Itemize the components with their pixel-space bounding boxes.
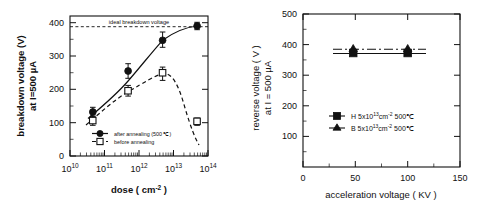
legend-filled-circle-icon [97,130,103,136]
right-x-tick-labels: 0 50 100 150 [300,173,467,183]
left-x-tick-5: 1014 [199,162,217,174]
chart-breakdown-voltage-vs-dose: ideal breakdown voltage 0 100 [0,0,245,205]
left-y-axis-title-line1: breakdown voltage (V) [15,35,26,136]
after-annealing-point-4 [194,23,201,30]
legend-label-B-implant: B 5x1013cm-2 500℃ [351,123,414,132]
right-y-tick-500: 500 [282,9,297,19]
before-annealing-point-2 [125,88,132,95]
left-y-tick-labels: 0 100 200 300 400 [49,18,64,161]
left-x-tick-4: 1013 [165,162,183,174]
before-annealing-point-1 [90,117,97,124]
right-x-axis-title: acceleration voltage ( KV ) [325,189,436,200]
left-x-axis-title: dose ( cm-2 ) [111,184,167,195]
right-x-tick-100: 100 [400,173,415,183]
right-chart-svg: 100 200 300 400 500 0 [245,0,489,205]
legend-label-before-annealing: before annealing [114,139,154,145]
right-x-tick-150: 150 [452,173,467,183]
left-x-tick-labels: 1010 1011 1012 1013 1014 [61,162,217,174]
figure-container: ideal breakdown voltage 0 100 [0,0,489,205]
right-x-tick-0: 0 [300,173,305,183]
left-y-axis-title-line2: at I=500 µA [27,61,38,111]
left-x-tick-1: 1010 [61,162,79,174]
after-annealing-point-2 [125,68,132,75]
right-y-axis-title: reverse voltage ( V ) at I = 500 µA [250,45,273,131]
right-y-tick-100: 100 [282,131,297,141]
left-y-tick-0: 0 [59,151,64,161]
right-y-tick-labels: 100 200 300 400 500 [282,9,297,141]
right-y-axis-title-line1: reverse voltage ( V ) [250,45,261,131]
right-plot-frame [303,14,460,167]
before-annealing-point-4 [194,118,201,125]
legend-label-H-implant: H 5x1013cm-2 500℃ [351,111,414,120]
legend-entry-before-annealing: before annealing [92,138,154,144]
left-y-tick-100: 100 [49,118,64,128]
legend-label-after-annealing: after annealing (500 ℃) [114,131,171,137]
right-y-axis-title-line2: at I = 500 µA [262,60,273,115]
chart-reverse-voltage-vs-acceleration-voltage: 100 200 300 400 500 0 [245,0,489,205]
left-y-axis-title: breakdown voltage (V) at I=500 µA [15,35,38,136]
left-y-tick-200: 200 [49,84,64,94]
right-y-tick-400: 400 [282,40,297,50]
right-y-tick-200: 200 [282,101,297,111]
H-implant-point-2 [404,49,412,57]
ideal-breakdown-voltage-annotation: ideal breakdown voltage [109,19,169,25]
left-x-tick-2: 1011 [96,162,113,174]
left-y-tick-400: 400 [49,18,64,28]
right-y-tick-300: 300 [282,70,297,80]
right-x-tick-50: 50 [350,173,360,183]
legend-filled-square-icon [334,112,341,119]
after-annealing-point-1 [89,109,96,116]
left-x-tick-3: 1012 [130,162,148,174]
left-chart-svg: ideal breakdown voltage 0 100 [0,0,245,205]
left-y-tick-300: 300 [49,51,64,61]
before-annealing-point-3 [159,70,166,77]
after-annealing-point-3 [159,37,166,44]
H-implant-point-1 [349,49,357,57]
legend-open-square-icon [97,138,103,144]
